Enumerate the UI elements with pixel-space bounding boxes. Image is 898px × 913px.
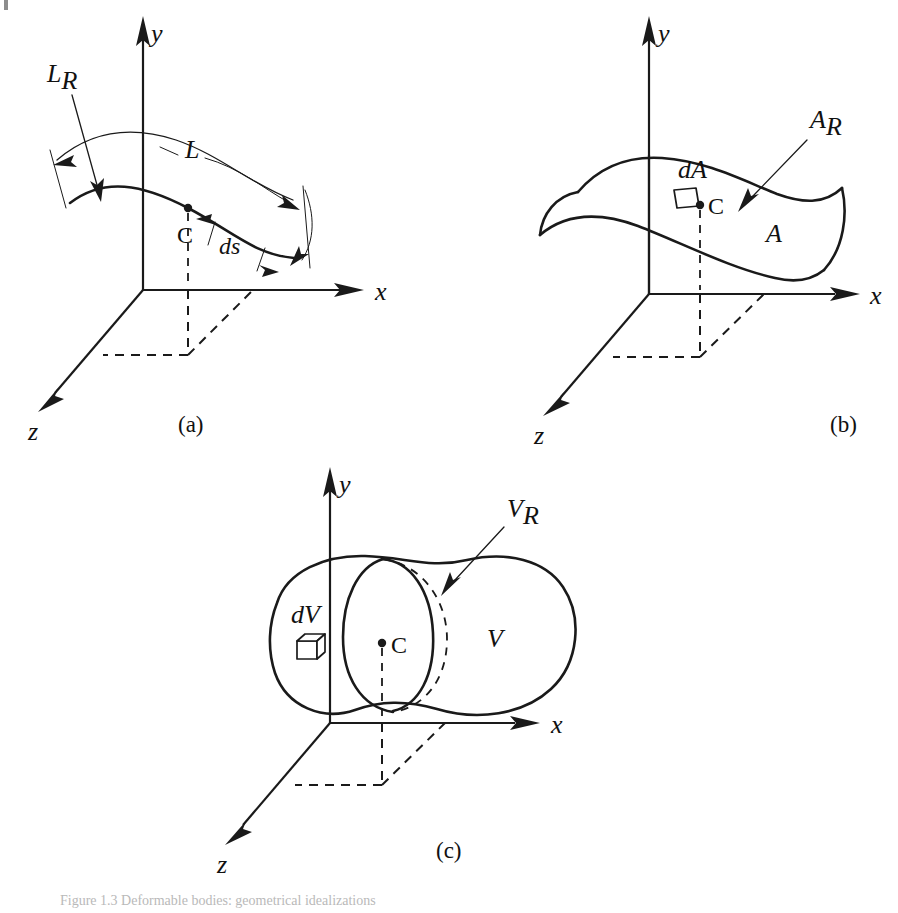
leader-LR-a xyxy=(72,95,104,202)
z-axis-label-b: z xyxy=(533,421,544,450)
label-A-b: A xyxy=(764,219,782,248)
z-axis-label-a: z xyxy=(27,417,38,446)
x-axis-a xyxy=(143,283,364,297)
panel-a-line-diagram: y x z LR xyxy=(0,0,430,460)
leader-AR-b xyxy=(738,140,807,212)
panel-caption-b: (b) xyxy=(830,412,857,438)
x-axis-label-c: x xyxy=(550,710,563,739)
label-VR-c: VR xyxy=(507,494,539,530)
centroid-label-c: C xyxy=(391,632,407,658)
dV-label-c: dV xyxy=(291,600,323,629)
centroid-dot-a xyxy=(184,204,192,212)
dA-label-b: dA xyxy=(678,155,707,184)
projection-lines-b xyxy=(613,294,764,357)
centroid-label-a: C xyxy=(177,222,193,248)
centroid-label-b: C xyxy=(708,193,724,219)
projection-lines-a xyxy=(103,290,253,355)
y-axis-label-c: y xyxy=(336,470,351,499)
x-axis-c xyxy=(330,716,540,730)
centroid-dot-b xyxy=(696,201,704,209)
y-axis-label-b: y xyxy=(655,19,670,48)
panel-b-area-diagram: y x z xyxy=(430,0,898,460)
dA-element-b xyxy=(674,188,699,208)
figure-caption: Figure 1.3 Deformable bodies: geometrica… xyxy=(60,893,880,909)
panel-c-volume-diagram: y x z dV xyxy=(215,455,715,885)
x-axis-label-b: x xyxy=(869,281,882,310)
label-LR-a: LR xyxy=(46,59,77,95)
label-L-a: L xyxy=(184,135,199,164)
figure-root: y x z LR xyxy=(0,0,898,913)
y-axis-label-a: y xyxy=(148,19,163,48)
label-V-c: V xyxy=(487,624,506,653)
ds-label-a: ds xyxy=(219,233,240,259)
projection-lines-c xyxy=(295,723,445,785)
centroid-dot-c xyxy=(378,639,386,647)
reference-cap-outline-c xyxy=(343,559,393,712)
z-axis-a xyxy=(38,290,143,412)
reference-arrow-a xyxy=(53,155,77,167)
x-axis-label-a: x xyxy=(374,277,387,306)
panel-caption-a: (a) xyxy=(178,412,204,438)
z-axis-b xyxy=(543,294,649,416)
panel-caption-c: (c) xyxy=(436,838,462,864)
label-AR-b: AR xyxy=(808,105,842,141)
z-axis-label-c: z xyxy=(216,850,227,879)
dV-element-c xyxy=(297,634,325,659)
x-axis-b xyxy=(649,287,860,301)
